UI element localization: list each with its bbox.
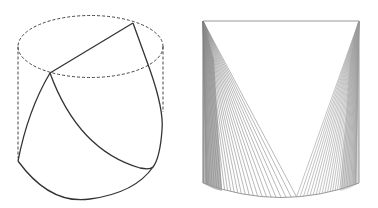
diagram-canvas — [0, 0, 378, 208]
right-rim-curve — [133, 23, 162, 167]
left-cylinder-figure — [18, 16, 163, 200]
inner-cut-curve — [50, 73, 153, 169]
right-cylinder-figure — [203, 21, 359, 198]
top-chord — [50, 23, 133, 73]
bottom-curve — [18, 161, 153, 200]
left-cut-curve — [18, 73, 50, 161]
bottom-rim — [203, 183, 359, 198]
left-fan-lines — [203, 21, 297, 198]
